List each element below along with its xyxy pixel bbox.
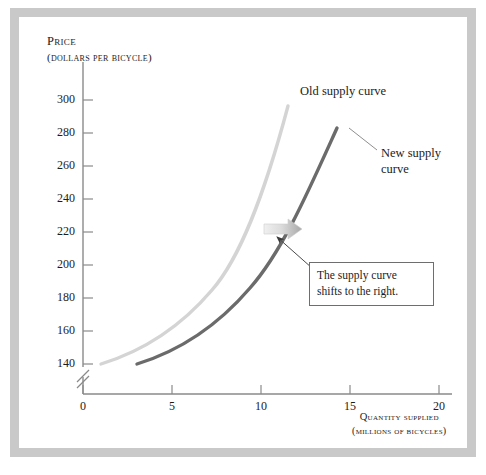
shift-annotation-line2: shifts to the right. (317, 284, 426, 300)
old-supply-curve-label: Old supply curve (300, 84, 386, 100)
x-axis-title-line2: (millions of bicycles) (352, 424, 447, 438)
shift-annotation-box: The supply curve shifts to the right. (309, 262, 434, 306)
y-tick-label-240: 240 (45, 191, 75, 206)
y-tick-label-300: 300 (45, 92, 75, 107)
new-supply-curve (137, 128, 337, 364)
y-tick-label-140: 140 (45, 356, 75, 371)
new-curve-leader-line (349, 128, 377, 150)
x-tick-label-10: 10 (249, 399, 273, 414)
x-axis-title: Quantity supplied (millions of bicycles) (352, 410, 447, 438)
x-tick-label-20: 20 (427, 399, 451, 414)
x-tick-label-15: 15 (338, 399, 362, 414)
new-supply-curve-label-line2: curve (381, 162, 409, 176)
shift-annotation-line1: The supply curve (317, 268, 426, 284)
y-tick-label-220: 220 (45, 224, 75, 239)
figure-root: Price (dollars per bicycle) Quantity sup… (0, 0, 486, 475)
y-axis-title-line2: (dollars per bicycle) (47, 50, 152, 65)
y-axis-title: Price (dollars per bicycle) (47, 33, 152, 65)
y-tick-label-180: 180 (45, 290, 75, 305)
shift-block-arrow-icon (264, 219, 302, 239)
y-tick-label-160: 160 (45, 323, 75, 338)
new-supply-curve-label: New supply curve (381, 146, 441, 177)
x-tick-label-0: 0 (71, 399, 95, 414)
y-axis-title-line1: Price (47, 33, 152, 50)
annotation-leader-line (277, 237, 312, 268)
x-tick-label-5: 5 (160, 399, 184, 414)
y-tick-label-260: 260 (45, 158, 75, 173)
y-tick-label-280: 280 (45, 125, 75, 140)
new-supply-curve-label-line1: New supply (381, 146, 441, 160)
old-supply-curve (101, 106, 288, 364)
y-axis-ticks (83, 100, 93, 364)
y-tick-label-200: 200 (45, 257, 75, 272)
x-axis-ticks (83, 385, 439, 394)
